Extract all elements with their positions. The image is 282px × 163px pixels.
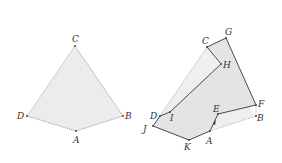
label-g: G xyxy=(225,27,232,37)
label-a: A xyxy=(72,135,80,145)
point-b xyxy=(122,115,124,117)
label-e: E xyxy=(212,104,220,114)
label-j: J xyxy=(141,124,148,134)
point-a xyxy=(75,130,77,132)
point-a xyxy=(209,130,211,132)
point-j xyxy=(152,125,154,127)
label-c: C xyxy=(202,36,209,46)
point-c xyxy=(74,45,76,47)
point-k xyxy=(188,139,190,141)
point-d xyxy=(159,115,161,117)
diagram-canvas: C D A B C G H F B xyxy=(0,0,282,163)
label-d: D xyxy=(149,111,157,121)
label-f: F xyxy=(257,99,265,109)
label-a: A xyxy=(205,136,213,146)
label-c: C xyxy=(72,34,79,44)
label-b: B xyxy=(124,111,132,121)
point-c xyxy=(206,46,208,48)
label-b: B xyxy=(256,113,264,123)
left-figure: C D A B xyxy=(16,34,132,145)
point-g xyxy=(225,37,227,39)
label-d: D xyxy=(16,111,24,121)
point-f xyxy=(255,104,257,106)
right-figure: C G H F B E A K J D I xyxy=(141,27,265,152)
label-h: H xyxy=(222,60,231,70)
kite-abcd xyxy=(27,46,123,131)
point-h xyxy=(220,63,222,65)
point-d xyxy=(26,115,28,117)
label-k: K xyxy=(183,142,192,152)
label-i: I xyxy=(169,113,174,123)
